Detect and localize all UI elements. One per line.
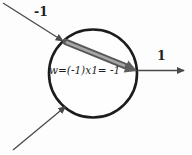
- diagram-svg: w=(-1)x1= -1 -1 1: [0, 0, 192, 155]
- input-label-top: -1: [34, 4, 48, 19]
- weight-equation-label: w=(-1)x1= -1: [49, 64, 120, 76]
- neuron-diagram: w=(-1)x1= -1 -1 1: [0, 0, 192, 155]
- input-arrow-top-left: [3, 3, 63, 41]
- output-label: 1: [157, 48, 166, 63]
- input-arrow-bottom-left: [13, 107, 66, 151]
